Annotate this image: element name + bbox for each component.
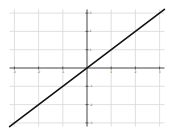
x-tick-label: 3 — [159, 70, 161, 74]
x-tick-label: 2 — [134, 70, 136, 74]
y-tick-label: -1 — [90, 84, 93, 88]
x-tick-label: -1 — [61, 70, 64, 74]
y-tick-label: -2 — [90, 103, 93, 107]
y-tick-label: 2 — [90, 29, 92, 33]
x-tick-label: -2 — [37, 70, 40, 74]
y-tick-label: 3 — [90, 11, 92, 15]
y-tick-label: 1 — [90, 48, 92, 52]
line-chart: -3-2-1123321-1-2-3 — [0, 0, 173, 136]
x-tick-label: 1 — [110, 70, 112, 74]
x-tick-label: -3 — [13, 70, 16, 74]
y-tick-label: -3 — [90, 121, 93, 125]
